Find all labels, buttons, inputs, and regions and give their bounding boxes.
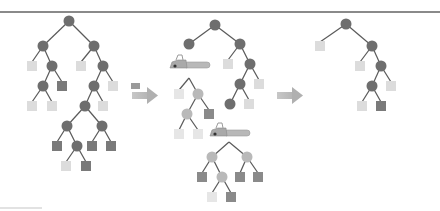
original-tree-nodes	[38, 16, 109, 152]
chainsaw-icon	[170, 55, 210, 68]
original-tree-leaves	[27, 61, 140, 171]
footer-mark	[0, 207, 42, 209]
arrow-right-icon	[132, 87, 158, 104]
pruned-tree-leaves	[315, 41, 396, 111]
pruning-diagram	[0, 0, 440, 211]
arrow-right-icon	[277, 87, 303, 104]
pruned-tree-nodes	[341, 19, 387, 92]
chainsaw-icon	[210, 123, 250, 136]
